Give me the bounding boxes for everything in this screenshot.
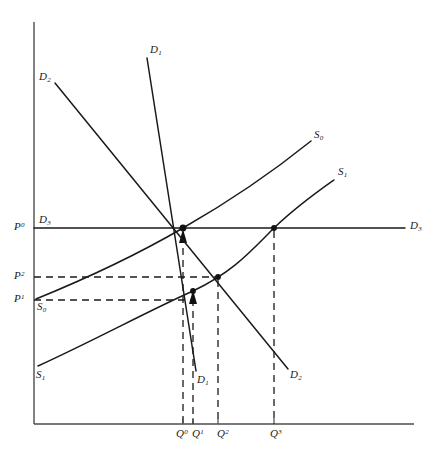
x-axis-ticks — [183, 418, 274, 424]
curve-label-s0-left: S0 — [37, 301, 46, 314]
x-tick-q0: Q0 — [176, 428, 188, 439]
curve-label-s1-right: S1 — [338, 166, 347, 179]
curve-d2 — [55, 83, 288, 369]
point-q2-p2 — [215, 274, 221, 280]
dashed-guides — [34, 231, 274, 424]
point-q3-p0 — [271, 225, 277, 231]
x-tick-q3: Q3 — [270, 428, 282, 439]
y-tick-p0: P0 — [14, 221, 24, 232]
curve-label-d3-left: D3 — [39, 214, 51, 227]
axes-group — [34, 22, 414, 424]
point-q1-p1 — [190, 288, 196, 294]
curve-s1 — [38, 180, 334, 366]
curve-label-d1-bottom: D1 — [197, 374, 209, 387]
curve-label-s1-left: S1 — [36, 369, 45, 382]
plot-canvas — [0, 0, 440, 453]
curve-label-d2-bottom: D2 — [290, 369, 302, 382]
curve-label-s0-right: S0 — [314, 129, 323, 142]
curve-label-d3-right: D3 — [410, 220, 422, 233]
curve-s0 — [36, 141, 311, 299]
x-tick-q1: Q1 — [192, 428, 204, 439]
point-equilibrium-q0-p0 — [180, 225, 187, 232]
supply-demand-figure: P0 P2 P1 Q0 Q1 Q2 Q3 D1 D2 D3 D3 S0 S1 S… — [0, 0, 440, 453]
y-tick-p2: P2 — [14, 270, 24, 281]
curve-d1 — [147, 58, 196, 371]
x-tick-q2: Q2 — [217, 428, 229, 439]
curve-label-d2-topleft: D2 — [39, 71, 51, 84]
y-tick-p1: P1 — [14, 293, 24, 304]
curve-label-d1-top: D1 — [150, 44, 162, 57]
marked-points — [180, 225, 277, 294]
